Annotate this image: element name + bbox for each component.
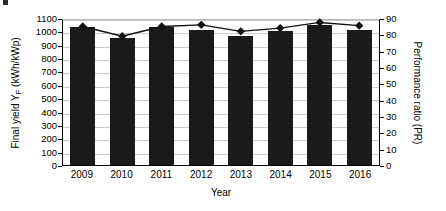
bar-slot	[142, 20, 182, 165]
x-tick-label: 2015	[301, 169, 341, 180]
x-tick-label: 2016	[340, 169, 380, 180]
right-tick-mark	[380, 19, 384, 20]
bar-slot	[261, 20, 301, 165]
right-tick-mark	[380, 52, 384, 53]
right-tick-mark	[380, 84, 384, 85]
chart-figure: Final yield YF (kWh/kWp) Performance rat…	[0, 0, 446, 211]
bar-series	[63, 20, 379, 165]
bar	[110, 38, 135, 165]
bar	[189, 30, 214, 165]
left-axis-ticks: 110010009008007006005004003002001000	[0, 0, 62, 211]
right-tick-mark	[380, 166, 384, 167]
bar	[228, 36, 253, 165]
bar-slot	[340, 20, 380, 165]
x-tick-label: 2014	[261, 169, 301, 180]
bar-slot	[182, 20, 222, 165]
right-tick-mark	[380, 68, 384, 69]
plot-area	[62, 19, 380, 166]
right-tick-mark	[380, 117, 384, 118]
bar	[149, 27, 174, 165]
bar-slot	[221, 20, 261, 165]
right-tick-mark	[380, 150, 384, 151]
x-axis-title: Year	[62, 187, 380, 198]
right-axis-ticks: 9080706050403020100	[380, 0, 420, 211]
x-tick-label: 2011	[142, 169, 182, 180]
right-tick-mark	[380, 101, 384, 102]
x-tick-label: 2010	[102, 169, 142, 180]
x-tick-label: 2012	[181, 169, 221, 180]
right-tick-mark	[380, 35, 384, 36]
right-tick-mark	[380, 133, 384, 134]
bar-slot	[300, 20, 340, 165]
bar-slot	[63, 20, 103, 165]
bar	[307, 25, 332, 165]
x-tick-label: 2013	[221, 169, 261, 180]
bar	[70, 27, 95, 165]
left-tick-mark	[58, 166, 62, 167]
x-tick-label: 2009	[62, 169, 102, 180]
x-axis-ticks: 20092010201120122013201420152016	[62, 169, 380, 180]
bar	[347, 30, 372, 165]
bar	[268, 31, 293, 165]
bar-slot	[103, 20, 143, 165]
